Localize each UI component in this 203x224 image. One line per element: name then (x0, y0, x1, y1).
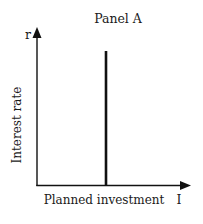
chart-title: Panel A (94, 11, 143, 26)
x-axis-arrow-icon (180, 181, 191, 190)
y-axis-label: Interest rate (10, 87, 24, 164)
y-axis-arrow-icon (33, 27, 42, 38)
chart-canvas: Panel A r I Planned investment Interest … (0, 0, 203, 224)
x-axis-label: Planned investment (44, 193, 165, 207)
y-axis-symbol: r (25, 27, 31, 42)
x-axis-symbol: I (177, 192, 182, 207)
